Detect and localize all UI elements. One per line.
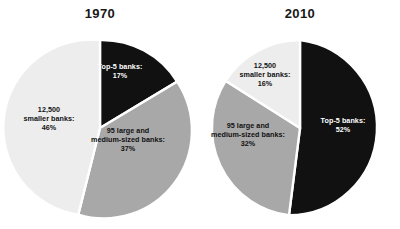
pie-2010-slice-top-5-banks (289, 40, 377, 215)
chart-panel-1970: 1970 Top-5 banks: 17% 12,500 smaller ban… (0, 0, 200, 229)
pie-chart-figure: 1970 Top-5 banks: 17% 12,500 smaller ban… (0, 0, 400, 229)
pie-1970-svg (0, 0, 200, 229)
pie-1970-slice-12500-smaller-banks (3, 40, 100, 215)
pie-2010: 12,500 smaller banks: 16% 95 large and m… (200, 0, 400, 229)
pie-1970: Top-5 banks: 17% 12,500 smaller banks: 4… (0, 0, 200, 229)
pie-2010-svg (200, 0, 400, 229)
chart-panel-2010: 2010 12,500 smaller banks: 16% 95 large … (200, 0, 400, 229)
